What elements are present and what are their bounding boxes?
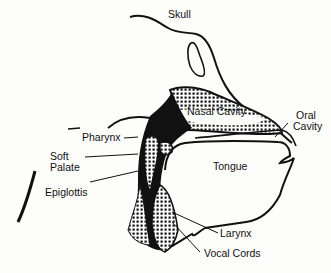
label-tongue: Tongue	[213, 161, 247, 172]
diagram-drawing	[0, 0, 331, 273]
pharynx-leader	[124, 137, 138, 138]
label-pharynx: Pharynx	[82, 132, 121, 143]
vocal-tract-diagram: Skull Nasal Cavity Oral Cavity Pharynx S…	[0, 0, 331, 273]
larynx-region	[152, 185, 178, 252]
epiglottis-leader	[90, 171, 138, 182]
label-oral-cavity-line2: Cavity	[293, 121, 322, 132]
label-skull: Skull	[168, 9, 191, 20]
label-larynx: Larynx	[220, 228, 252, 239]
label-epiglottis: Epiglottis	[45, 187, 88, 198]
label-vocal-cords: Vocal Cords	[204, 248, 261, 259]
eye-socket-outline	[188, 43, 205, 77]
label-nasal-cavity: Nasal Cavity	[187, 106, 246, 117]
label-soft-palate-line2: Palate	[50, 162, 80, 173]
head-dash	[68, 128, 80, 129]
soft-palate-leader	[85, 154, 138, 157]
neck-curve	[18, 171, 35, 222]
pharynx-top-curve	[108, 117, 150, 128]
